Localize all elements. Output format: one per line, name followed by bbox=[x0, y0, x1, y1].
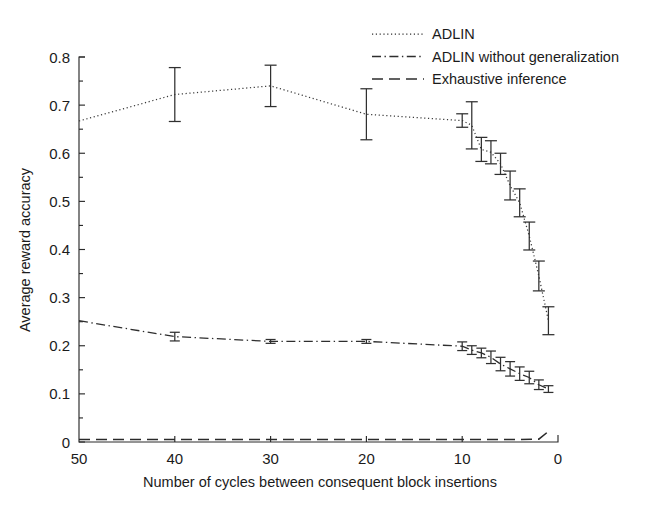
y-axis-title: Average reward accuracy bbox=[17, 167, 33, 332]
y-tick-label: 0.6 bbox=[49, 145, 70, 162]
legend-item-label: Exhaustive inference bbox=[432, 71, 567, 87]
x-tick-label: 20 bbox=[358, 450, 375, 467]
y-tick-label: 0.4 bbox=[49, 241, 70, 258]
y-tick-label: 0.3 bbox=[49, 289, 70, 306]
axis-frame bbox=[79, 57, 558, 442]
x-tick-label: 50 bbox=[71, 450, 88, 467]
x-tick-label: 10 bbox=[454, 450, 471, 467]
y-axis-tick-labels: 00.10.20.30.40.50.60.70.8 bbox=[49, 49, 70, 451]
legend-item-label: ADLIN without generalization bbox=[432, 49, 619, 65]
series-line-exhaustive-inference bbox=[79, 431, 548, 439]
y-tick-label: 0.5 bbox=[49, 193, 70, 210]
plot-series bbox=[79, 65, 554, 439]
x-axis-title: Number of cycles between consequent bloc… bbox=[143, 474, 497, 490]
error-bars-adlin bbox=[169, 65, 555, 335]
y-tick-label: 0.2 bbox=[49, 337, 70, 354]
y-tick-label: 0.8 bbox=[49, 49, 70, 66]
chart-figure: 00.10.20.30.40.50.60.70.8 50403020100 Av… bbox=[0, 0, 646, 512]
x-tick-label: 0 bbox=[554, 450, 562, 467]
series-line-adlin-without-generalization bbox=[79, 321, 548, 389]
x-tick-label: 30 bbox=[262, 450, 279, 467]
y-tick-label: 0 bbox=[62, 434, 70, 451]
y-axis-ticks bbox=[79, 57, 85, 442]
chart-canvas: 00.10.20.30.40.50.60.70.8 50403020100 Av… bbox=[0, 0, 646, 512]
legend-item-label: ADLIN bbox=[432, 26, 475, 42]
legend: ADLINADLIN without generalizationExhaust… bbox=[372, 26, 619, 87]
series-line-adlin bbox=[79, 86, 548, 321]
x-axis-tick-labels: 50403020100 bbox=[71, 450, 563, 467]
plot-axes: 00.10.20.30.40.50.60.70.8 50403020100 bbox=[49, 49, 562, 468]
x-tick-label: 40 bbox=[166, 450, 183, 467]
y-tick-label: 0.1 bbox=[49, 385, 70, 402]
y-tick-label: 0.7 bbox=[49, 97, 70, 114]
